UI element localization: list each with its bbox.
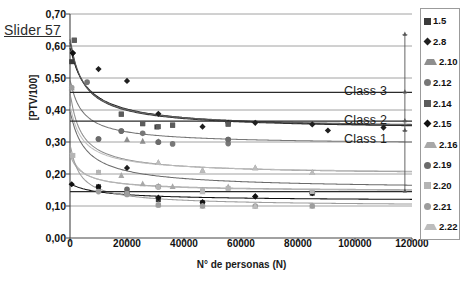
legend-marker-triangle-icon (424, 59, 437, 65)
data-point (124, 192, 130, 198)
data-point (96, 170, 101, 175)
legend-label: 2.16 (439, 140, 458, 150)
data-point (170, 123, 175, 128)
legend-item-2.22[interactable]: 2.22 (424, 218, 457, 236)
data-point (119, 128, 125, 134)
class-label-class-1: Class 1 (344, 132, 387, 146)
series-2.20 (70, 153, 314, 208)
legend-marker-triangle-icon (424, 142, 437, 148)
x-tick-label: 60000 (227, 238, 255, 249)
chart-container: Slider 57 [PTV/100] 0,000,100,200,300,40… (0, 0, 464, 281)
legend-label: 1.5 (433, 16, 446, 26)
legend-label: 2.21 (433, 202, 452, 212)
legend-item-2.10[interactable]: 2.10 (424, 53, 457, 71)
legend: 1.52.82.102.122.142.152.162.192.202.212.… (420, 8, 460, 240)
data-point (310, 189, 315, 194)
data-point (119, 112, 124, 117)
data-point (70, 153, 75, 158)
legend-marker-circle-icon (424, 79, 431, 86)
x-axis-tick-labels: 020000400006000080000100000120000 (0, 238, 464, 256)
data-point (124, 187, 130, 193)
legend-marker-circle-icon (424, 203, 431, 210)
series-2.22 (155, 159, 315, 208)
legend-item-2.8[interactable]: 2.8 (424, 33, 457, 51)
legend-marker-triangle-icon (424, 224, 437, 230)
data-point (140, 180, 146, 186)
legend-label: 2.10 (439, 57, 458, 67)
legend-label: 2.22 (439, 222, 458, 232)
data-point (69, 85, 75, 91)
legend-item-2.15[interactable]: 2.15 (424, 115, 457, 133)
legend-item-2.19[interactable]: 2.19 (424, 156, 457, 174)
class-label-class-3: Class 3 (344, 84, 387, 98)
data-point (156, 124, 161, 129)
x-tick-label: 100000 (338, 238, 371, 249)
class-label-class-2: Class 2 (344, 113, 387, 127)
data-point (309, 203, 315, 209)
x-tick-label: 0 (67, 238, 73, 249)
data-point (72, 38, 77, 43)
data-point (140, 131, 146, 137)
legend-marker-square-icon (424, 18, 431, 25)
data-point (225, 137, 231, 143)
range-indicator (402, 32, 407, 193)
data-point (96, 136, 102, 142)
legend-marker-diamond-icon (424, 120, 432, 128)
data-point (226, 186, 231, 191)
data-point (140, 138, 146, 144)
legend-label: 2.12 (433, 78, 452, 88)
legend-item-2.16[interactable]: 2.16 (424, 136, 457, 154)
data-point (118, 172, 124, 178)
legend-label: 2.19 (433, 160, 452, 170)
legend-label: 2.15 (433, 119, 452, 129)
data-point (140, 121, 145, 126)
legend-item-2.21[interactable]: 2.21 (424, 197, 457, 215)
legend-marker-diamond-icon (424, 38, 432, 46)
data-point (309, 121, 315, 127)
data-point (95, 66, 101, 72)
legend-item-2.12[interactable]: 2.12 (424, 74, 457, 92)
legend-label: 2.20 (433, 181, 452, 191)
x-tick-label: 20000 (113, 238, 141, 249)
data-point (96, 189, 102, 195)
legend-marker-circle-icon (424, 162, 431, 169)
data-point (226, 122, 231, 127)
series-2.15 (69, 50, 316, 205)
data-point (84, 79, 90, 85)
data-point (156, 184, 161, 189)
legend-item-1.5[interactable]: 1.5 (424, 12, 457, 30)
x-axis-title: N° de personas (N) (70, 259, 413, 270)
legend-item-2.20[interactable]: 2.20 (424, 177, 457, 195)
axis-frame (66, 14, 412, 242)
x-tick-label: 40000 (170, 238, 198, 249)
legend-item-2.14[interactable]: 2.14 (424, 94, 457, 112)
data-point (69, 59, 74, 64)
series-2.10 (69, 84, 316, 175)
legend-marker-square-icon (424, 182, 431, 189)
legend-marker-square-icon (424, 100, 431, 107)
x-tick-label: 80000 (284, 238, 312, 249)
data-point (156, 202, 162, 208)
legend-label: 2.14 (433, 99, 452, 109)
data-point (124, 78, 130, 84)
legend-label: 2.8 (433, 37, 446, 47)
data-point (155, 159, 161, 165)
data-point (170, 141, 176, 147)
data-point (325, 127, 331, 133)
data-point (156, 139, 162, 145)
data-point (252, 164, 258, 170)
data-point (124, 136, 130, 142)
data-point (200, 203, 206, 209)
data-point (199, 124, 205, 130)
